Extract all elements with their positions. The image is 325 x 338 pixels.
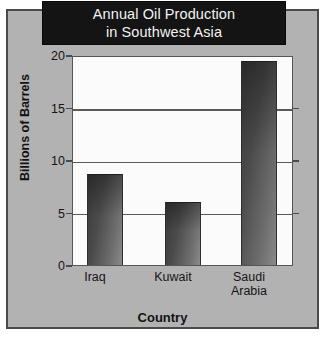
y-tick-label-5: 5 bbox=[37, 207, 65, 221]
chart-figure: Annual Oil Production in Southwest Asia … bbox=[0, 0, 325, 338]
bar-iraq[interactable] bbox=[87, 174, 123, 265]
y-tick-label-10: 10 bbox=[37, 154, 65, 168]
x-tick-label-saudi-arabia-line-1: Saudi bbox=[214, 270, 284, 284]
bar-saudi-arabia[interactable] bbox=[241, 61, 277, 265]
y-axis-title: Billions of Barrels bbox=[18, 155, 32, 181]
bar-kuwait[interactable] bbox=[165, 202, 201, 265]
x-tick-label-kuwait: Kuwait bbox=[138, 270, 208, 284]
x-tick-label-kuwait-line-1: Kuwait bbox=[138, 270, 208, 284]
x-tick-label-saudi-arabia: Saudi Arabia bbox=[214, 270, 284, 298]
y-tick-label-20: 20 bbox=[37, 49, 65, 63]
y-tick-label-15: 15 bbox=[37, 102, 65, 116]
plot-inner bbox=[73, 57, 292, 265]
y-tick-mark-right-10 bbox=[293, 160, 299, 162]
y-tick-mark-right-15 bbox=[293, 108, 299, 110]
plot-area bbox=[72, 56, 293, 266]
chart-title-line-1: Annual Oil Production bbox=[93, 5, 235, 23]
chart-title-line-2: in Southwest Asia bbox=[106, 23, 222, 41]
chart-title-banner: Annual Oil Production in Southwest Asia bbox=[42, 1, 286, 45]
x-axis-title: Country bbox=[0, 310, 325, 325]
x-tick-label-iraq-line-1: Iraq bbox=[60, 270, 130, 284]
x-tick-label-saudi-arabia-line-2: Arabia bbox=[214, 284, 284, 298]
y-tick-mark-right-5 bbox=[293, 213, 299, 215]
x-tick-label-iraq: Iraq bbox=[60, 270, 130, 284]
